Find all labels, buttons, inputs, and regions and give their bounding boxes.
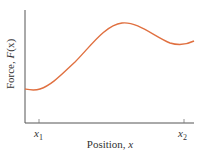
x1-tick-label: x1	[34, 127, 43, 142]
force-position-figure: Force, F(x) x1 x2 Position, x	[0, 0, 206, 159]
y-axis-label: Force, F(x)	[4, 24, 16, 104]
force-curve	[25, 23, 194, 90]
x-axis-label: Position, x	[60, 138, 160, 150]
plot-area	[0, 0, 206, 159]
x2-tick-label: x2	[178, 127, 187, 142]
